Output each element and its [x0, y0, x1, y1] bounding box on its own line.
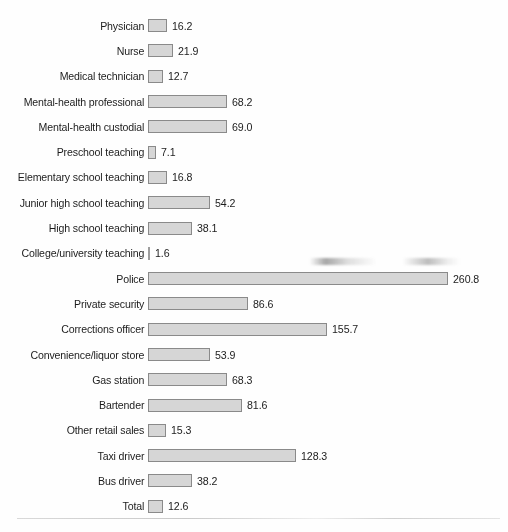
bar-category-label: Bartender — [10, 399, 148, 411]
bar-track: 53.9 — [148, 348, 508, 362]
bar-category-label: Medical technician — [10, 70, 148, 82]
bar — [148, 373, 227, 386]
bar-row: Preschool teaching7.1 — [0, 139, 508, 164]
bar-value-label: 1.6 — [155, 247, 170, 259]
bar — [148, 272, 448, 285]
bar — [148, 44, 173, 57]
bar-category-label: Other retail sales — [10, 424, 148, 436]
bar — [148, 247, 150, 260]
bar-category-label: High school teaching — [10, 222, 148, 234]
bar-value-label: 12.7 — [168, 70, 188, 82]
bar-value-label: 21.9 — [178, 45, 198, 57]
bar-category-label: Total — [10, 500, 148, 512]
bar-category-label: College/university teaching — [10, 247, 148, 259]
bar-category-label: Nurse — [10, 45, 148, 57]
bar-row: Elementary school teaching16.8 — [0, 165, 508, 190]
bar-row: Physician16.2 — [0, 13, 508, 38]
bar-value-label: 68.2 — [232, 96, 252, 108]
bar-row: Nurse21.9 — [0, 38, 508, 63]
bar-row: High school teaching38.1 — [0, 215, 508, 240]
bar-track: 38.1 — [148, 221, 508, 235]
bar-value-label: 128.3 — [301, 450, 327, 462]
bar-category-label: Preschool teaching — [10, 146, 148, 158]
bar-row: Medical technician12.7 — [0, 64, 508, 89]
bar — [148, 323, 327, 336]
bar-value-label: 16.8 — [172, 171, 192, 183]
bar-row: Mental-health professional68.2 — [0, 89, 508, 114]
bar-value-label: 53.9 — [215, 349, 235, 361]
bar-value-label: 155.7 — [332, 323, 358, 335]
bar — [148, 449, 296, 462]
bar-row: Private security86.6 — [0, 291, 508, 316]
bar — [148, 399, 242, 412]
bar-row: College/university teaching1.6 — [0, 241, 508, 266]
bar-row: Bartender81.6 — [0, 392, 508, 417]
horizontal-bar-chart: Physician16.2Nurse21.9Medical technician… — [0, 0, 508, 532]
bottom-divider-rule — [17, 518, 500, 519]
bar-track: 38.2 — [148, 474, 508, 488]
bar-value-label: 38.2 — [197, 475, 217, 487]
bar-track: 1.6 — [148, 246, 508, 260]
bar-track: 128.3 — [148, 449, 508, 463]
bar-row: Taxi driver128.3 — [0, 443, 508, 468]
bar-track: 7.1 — [148, 145, 508, 159]
bar-row: Total12.6 — [0, 494, 508, 519]
bar-value-label: 69.0 — [232, 121, 252, 133]
bar-category-label: Elementary school teaching — [10, 171, 148, 183]
bar — [148, 95, 227, 108]
bar-row: Convenience/liquor store53.9 — [0, 342, 508, 367]
bar-row: Mental-health custodial69.0 — [0, 114, 508, 139]
bar-track: 12.6 — [148, 499, 508, 513]
bar-value-label: 260.8 — [453, 273, 479, 285]
bar-category-label: Physician — [10, 20, 148, 32]
bar-row: Police260.8 — [0, 266, 508, 291]
bar-track: 21.9 — [148, 44, 508, 58]
bar-value-label: 81.6 — [247, 399, 267, 411]
bar-category-label: Junior high school teaching — [10, 197, 148, 209]
bar — [148, 171, 167, 184]
bar-category-label: Mental-health professional — [10, 96, 148, 108]
bar-track: 16.2 — [148, 19, 508, 33]
bar-value-label: 12.6 — [168, 500, 188, 512]
bar-value-label: 86.6 — [253, 298, 273, 310]
bar — [148, 19, 167, 32]
bar-track: 68.2 — [148, 95, 508, 109]
bar-category-label: Mental-health custodial — [10, 121, 148, 133]
bar — [148, 297, 248, 310]
bar-track: 16.8 — [148, 170, 508, 184]
bar-row: Corrections officer155.7 — [0, 317, 508, 342]
bar-row: Bus driver38.2 — [0, 468, 508, 493]
bar-value-label: 16.2 — [172, 20, 192, 32]
bar-category-label: Corrections officer — [10, 323, 148, 335]
bar — [148, 70, 163, 83]
bar-category-label: Convenience/liquor store — [10, 349, 148, 361]
bar-track: 260.8 — [148, 272, 508, 286]
bar-value-label: 38.1 — [197, 222, 217, 234]
bar — [148, 500, 163, 513]
bar-row: Junior high school teaching54.2 — [0, 190, 508, 215]
bar-row: Gas station68.3 — [0, 367, 508, 392]
bar — [148, 424, 166, 437]
bar-track: 54.2 — [148, 196, 508, 210]
bar-value-label: 15.3 — [171, 424, 191, 436]
bar-category-label: Bus driver — [10, 475, 148, 487]
bar — [148, 222, 192, 235]
bar-row-list: Physician16.2Nurse21.9Medical technician… — [0, 13, 508, 519]
bar-track: 12.7 — [148, 69, 508, 83]
bar-category-label: Police — [10, 273, 148, 285]
bar-value-label: 54.2 — [215, 197, 235, 209]
bar-value-label: 7.1 — [161, 146, 176, 158]
bar — [148, 196, 210, 209]
bar-track: 68.3 — [148, 373, 508, 387]
bar-track: 15.3 — [148, 423, 508, 437]
bar-row: Other retail sales15.3 — [0, 418, 508, 443]
bar-category-label: Gas station — [10, 374, 148, 386]
bar — [148, 348, 210, 361]
bar-category-label: Private security — [10, 298, 148, 310]
bar — [148, 474, 192, 487]
bar-track: 155.7 — [148, 322, 508, 336]
bar-track: 69.0 — [148, 120, 508, 134]
bar-value-label: 68.3 — [232, 374, 252, 386]
bar-track: 86.6 — [148, 297, 508, 311]
bar — [148, 120, 227, 133]
